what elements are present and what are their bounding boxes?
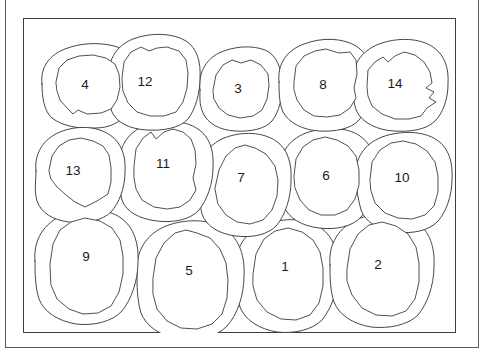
region-label-4: 4 — [81, 77, 89, 92]
region-12-inner-contour — [122, 47, 188, 116]
region-5-inner-contour — [153, 230, 228, 329]
region-label-2: 2 — [374, 257, 382, 272]
region-9-inner-contour — [50, 218, 123, 314]
figure-canvas: 1234567891011121314 — [0, 0, 482, 358]
region-label-11: 11 — [156, 156, 170, 171]
region-label-9: 9 — [82, 249, 90, 264]
region-1-inner-contour — [253, 228, 323, 320]
region-label-6: 6 — [322, 168, 330, 183]
region-label-5: 5 — [185, 263, 193, 278]
region-label-12: 12 — [137, 74, 152, 89]
region-label-1: 1 — [281, 259, 289, 274]
region-label-3: 3 — [234, 81, 242, 96]
region-label-7: 7 — [237, 170, 245, 185]
region-label-14: 14 — [387, 76, 403, 91]
region-2-inner-contour — [347, 222, 419, 316]
region-label-8: 8 — [319, 77, 327, 92]
region-map-svg: 1234567891011121314 — [23, 18, 456, 333]
region-label-13: 13 — [65, 163, 80, 178]
region-label-10: 10 — [394, 170, 409, 185]
